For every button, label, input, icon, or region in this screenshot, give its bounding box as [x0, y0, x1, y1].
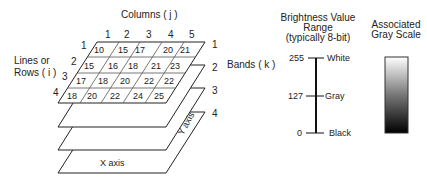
cell-3-5: 22 — [164, 76, 174, 86]
column-index-4: 4 — [168, 29, 174, 40]
column-index-2: 2 — [124, 29, 130, 40]
cell-1-2: 15 — [118, 45, 128, 55]
row-index-4: 4 — [53, 87, 59, 98]
band-index-4: 4 — [212, 108, 218, 119]
cell-4-3: 22 — [110, 91, 120, 101]
column-index-5: 5 — [189, 29, 195, 40]
rows-title-line1: Lines or — [14, 55, 50, 66]
band-index-1: 1 — [212, 39, 218, 50]
tick-value-0: 0 — [297, 128, 302, 138]
brightness-title-line3: (typically 8-bit) — [280, 33, 356, 43]
band-index-3: 3 — [212, 85, 218, 96]
tick-value-127: 127 — [288, 91, 303, 101]
cell-4-4: 24 — [133, 91, 143, 101]
cell-1-5: 21 — [180, 45, 190, 55]
rows-title-line2: Rows ( i ) — [14, 67, 56, 78]
cell-3-4: 22 — [144, 76, 154, 86]
grayscale-title: Associated Gray Scale — [365, 20, 427, 40]
tick-label-white: White — [327, 53, 350, 63]
columns-title: Columns ( j ) — [121, 9, 178, 20]
tick-label-black: Black — [329, 128, 351, 138]
brightness-title: Brightness Value Range (typically 8-bit) — [280, 13, 356, 43]
band-index-2: 2 — [212, 62, 218, 73]
gray-scale-bar — [385, 57, 408, 133]
x-axis-label: X axis — [100, 158, 125, 168]
cell-3-1: 17 — [76, 76, 86, 86]
cell-1-1: 10 — [94, 45, 104, 55]
cell-3-3: 20 — [120, 76, 130, 86]
tick-label-gray: Gray — [325, 91, 345, 101]
cell-4-1: 18 — [67, 91, 77, 101]
cell-2-2: 16 — [108, 61, 118, 71]
cell-2-3: 18 — [128, 61, 138, 71]
row-index-3: 3 — [62, 71, 68, 82]
grayscale-title-line2: Gray Scale — [365, 30, 427, 40]
cell-2-4: 21 — [151, 61, 161, 71]
column-index-3: 3 — [146, 29, 152, 40]
cell-4-5: 25 — [154, 91, 164, 101]
cell-1-4: 20 — [163, 45, 173, 55]
row-index-2: 2 — [71, 56, 77, 67]
bands-title: Bands ( k ) — [227, 59, 275, 70]
cell-2-1: 15 — [84, 61, 94, 71]
cell-3-2: 18 — [98, 76, 108, 86]
cell-2-5: 23 — [170, 61, 180, 71]
row-index-1: 1 — [81, 40, 87, 51]
column-index-1: 1 — [105, 29, 111, 40]
cell-1-3: 17 — [135, 45, 145, 55]
cell-4-2: 20 — [87, 91, 97, 101]
tick-value-255: 255 — [289, 53, 304, 63]
